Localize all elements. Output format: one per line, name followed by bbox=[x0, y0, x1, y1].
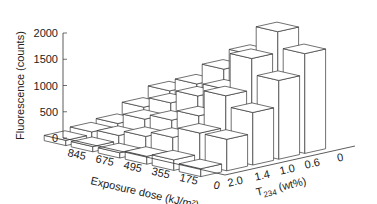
t234-tick-label: 1.4 bbox=[253, 168, 271, 183]
dose-tick-label: 0 bbox=[213, 179, 222, 192]
t234-tick-label: 0.6 bbox=[303, 156, 321, 171]
t234-tick-label: 2.0 bbox=[226, 174, 244, 189]
t234-tick-label: 0 bbox=[336, 151, 345, 164]
z-tick-label: 2000 bbox=[34, 27, 58, 39]
t234-tick-label: 1.0 bbox=[278, 162, 296, 177]
z-tick-label: 1500 bbox=[34, 53, 58, 65]
z-tick-label: 500 bbox=[40, 106, 58, 118]
z-tick-label: 0 bbox=[52, 132, 58, 144]
z-axis-label: Fluorescence (counts) bbox=[14, 31, 26, 140]
z-tick-label: 1000 bbox=[34, 80, 58, 92]
chart-canvas: 0500100015002000845675495355175000.61.01… bbox=[0, 0, 377, 204]
